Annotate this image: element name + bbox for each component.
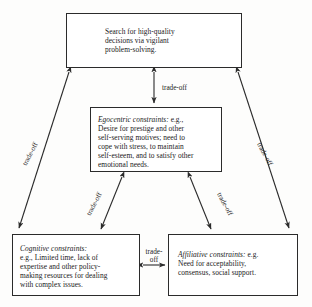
node-affiliative-lead: Affiliative constraints: — [178, 250, 246, 259]
edge-egocentric-cognitive — [101, 177, 122, 229]
node-egocentric-body: e.g., Desire for prestige and other self… — [98, 115, 193, 169]
node-cognitive-lead: Cognitive constraints: — [20, 244, 87, 253]
node-cognitive-body: e.g., Limited time, lack of expertise an… — [20, 253, 107, 289]
diagram-canvas: Search for high-quality decisions via vi… — [0, 0, 312, 307]
node-affiliative-text: Affiliative constraints: e.g. Need for a… — [178, 250, 258, 277]
node-top-text: Search for high-quality decisions via vi… — [105, 27, 175, 54]
node-cognitive-constraints: Cognitive constraints: e.g., Limited tim… — [12, 234, 140, 296]
edge-label-top-egocentric: trade-off — [162, 84, 187, 92]
edge-label-cognitive-affiliative: trade- off — [142, 248, 166, 265]
node-egocentric-constraints: Egocentric constraints: e.g., Desire for… — [90, 107, 222, 172]
node-egocentric-text: Egocentric constraints: e.g., Desire for… — [98, 115, 193, 170]
node-cognitive-text: Cognitive constraints: e.g., Limited tim… — [20, 244, 107, 289]
node-search-high-quality-decisions: Search for high-quality decisions via vi… — [66, 13, 242, 68]
edge-label-top-cognitive: trade-off — [21, 141, 40, 167]
node-top-body: Search for high-quality decisions via vi… — [105, 27, 175, 54]
node-egocentric-lead: Egocentric constraints: — [98, 115, 169, 124]
edge-label-top-affiliative: trade-off — [255, 141, 274, 167]
edge-egocentric-affiliative — [190, 177, 211, 229]
node-affiliative-constraints: Affiliative constraints: e.g. Need for a… — [168, 234, 298, 296]
edge-label-egocentric-affiliative: trade-off — [215, 191, 234, 217]
edge-label-egocentric-cognitive: trade-off — [85, 191, 104, 217]
